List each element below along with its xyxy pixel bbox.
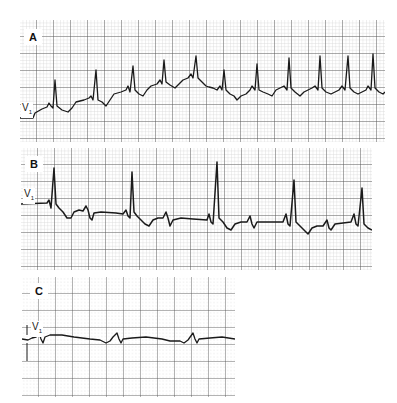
- lead-sub-a: 1: [29, 109, 32, 115]
- lead-sub-c: 1: [39, 328, 42, 334]
- panel-label-a: A: [24, 29, 42, 45]
- lead-label-a: V1: [21, 102, 33, 118]
- lead-label-c: V1: [31, 321, 43, 337]
- ecg-strip-c: C V1: [22, 277, 235, 397]
- panel-label-c: C: [30, 283, 48, 299]
- panel-label-b: B: [25, 156, 43, 172]
- ecg-strip-b: B V1: [21, 148, 372, 270]
- lead-sub-b: 1: [31, 195, 34, 201]
- ecg-grid-c: [22, 277, 235, 397]
- lead-name-a: V: [22, 102, 29, 113]
- ecg-grid-a: [20, 20, 385, 142]
- ecg-strip-a: A V1: [20, 20, 385, 142]
- lead-name-c: V: [32, 321, 39, 332]
- lead-name-b: V: [24, 188, 31, 199]
- ecg-grid-b: [21, 148, 372, 270]
- lead-label-b: V1: [23, 188, 35, 204]
